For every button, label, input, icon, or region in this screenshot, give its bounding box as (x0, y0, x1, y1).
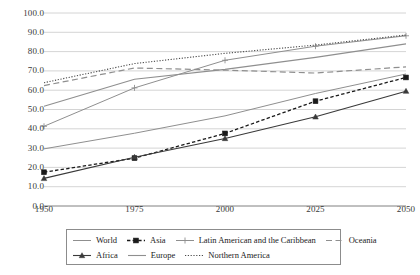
series-europe (44, 44, 406, 106)
series-line (44, 44, 406, 106)
y-tick-label: 60.0 (4, 86, 44, 95)
y-tick-label: 10.0 (4, 182, 44, 191)
series-latin-american-and-the-caribbean (41, 33, 409, 130)
legend-label-asia: Asia (150, 235, 166, 246)
x-tick-label: 2000 (200, 205, 250, 214)
y-tick-label: 100.0 (4, 9, 44, 18)
plot-area: 100.090.080.070.060.050.040.030.020.010.… (0, 0, 414, 222)
legend-entry-africa[interactable]: Africa (72, 250, 118, 261)
x-tick-label: 1975 (110, 205, 160, 214)
y-axis-tick-labels: 100.090.080.070.060.050.040.030.020.010.… (0, 0, 44, 222)
legend-symbol-asia (126, 235, 146, 246)
legend-entry-latin-american-and-the-caribbean[interactable]: Latin American and the Caribbean (175, 235, 316, 246)
series-line (44, 77, 406, 172)
data-point-marker (222, 57, 228, 63)
legend-label-europe: Europe (151, 250, 176, 261)
x-tick-label: 2025 (291, 205, 341, 214)
y-tick-label: 50.0 (4, 105, 44, 114)
y-tick-label: 40.0 (4, 124, 44, 133)
data-point-marker (403, 88, 409, 93)
legend-row-2: Africa Europe Northern America (72, 248, 335, 263)
chart-legend: World Asia Latin American and the Caribb… (66, 229, 341, 265)
data-point-marker (223, 131, 228, 136)
plot-svg (0, 0, 414, 222)
legend-label-latin-american-and-the-caribbean: Latin American and the Caribbean (199, 235, 316, 246)
legend-entry-northern-america[interactable]: Northern America (184, 250, 270, 261)
legend-entry-europe[interactable]: Europe (127, 250, 176, 261)
legend-label-africa: Africa (96, 250, 118, 261)
y-tick-label: 20.0 (4, 163, 44, 172)
legend-symbol-europe (127, 250, 147, 261)
series-line (44, 36, 406, 127)
x-tick-label: 1950 (19, 205, 69, 214)
data-point-marker (404, 75, 409, 80)
data-point-marker (134, 238, 139, 243)
data-point-marker (403, 33, 409, 39)
legend-entry-oceania[interactable]: Oceania (325, 235, 377, 246)
legend-label-oceania: Oceania (349, 235, 377, 246)
legend-symbol-world (72, 235, 92, 246)
legend-label-northern-america: Northern America (208, 250, 270, 261)
y-tick-label: 30.0 (4, 144, 44, 153)
x-tick-label: 2050 (381, 205, 420, 214)
legend-symbol-africa (72, 250, 92, 261)
data-point-marker (182, 238, 188, 244)
legend-entry-world[interactable]: World (72, 235, 117, 246)
y-tick-label: 70.0 (4, 66, 44, 75)
y-tick-label: 80.0 (4, 47, 44, 56)
legend-label-world: World (96, 235, 117, 246)
legend-entry-asia[interactable]: Asia (126, 235, 166, 246)
x-axis-tick-labels: 19501975200020252050 (0, 205, 414, 221)
data-point-marker (313, 43, 319, 49)
legend-symbol-latin-american-and-the-caribbean (175, 235, 195, 246)
y-tick-label: 90.0 (4, 28, 44, 37)
legend-row-1: World Asia Latin American and the Caribb… (72, 233, 335, 248)
legend-symbol-northern-america (184, 250, 204, 261)
legend-symbol-oceania (325, 235, 345, 246)
data-point-marker (313, 99, 318, 104)
